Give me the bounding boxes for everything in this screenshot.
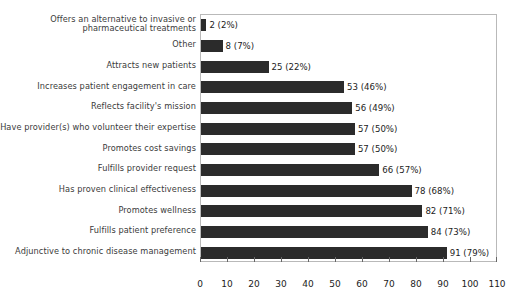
category-label: Adjunctive to chronic disease management [0, 247, 196, 257]
bar [201, 81, 344, 93]
x-tick-label: 80 [410, 279, 421, 289]
bar-value-label: 84 (73%) [431, 226, 470, 238]
bar [201, 226, 428, 238]
x-tick-label: 0 [197, 279, 203, 289]
bar [201, 247, 447, 259]
category-label: Promotes wellness [0, 206, 196, 216]
plot-area: 2 (2%)8 (7%)25 (22%)53 (46%)56 (49%)57 (… [200, 14, 497, 262]
bar [201, 123, 355, 135]
x-tick-label: 60 [356, 279, 367, 289]
category-label: Attracts new patients [0, 61, 196, 71]
bar-value-label: 91 (79%) [450, 247, 489, 259]
x-tick-label: 70 [383, 279, 394, 289]
bar-value-label: 57 (50%) [358, 143, 397, 155]
category-label: Promotes cost savings [0, 144, 196, 154]
x-tick-label: 110 [488, 279, 505, 289]
x-tick-label: 10 [221, 279, 232, 289]
category-label: Increases patient engagement in care [0, 82, 196, 92]
category-label: Fulfills provider request [0, 164, 196, 174]
bar [201, 61, 269, 73]
bar-value-label: 78 (68%) [415, 185, 454, 197]
x-tick-label: 40 [302, 279, 313, 289]
bar [201, 185, 412, 197]
bar-value-label: 57 (50%) [358, 123, 397, 135]
x-tick-label: 30 [275, 279, 286, 289]
category-label: Offers an alternative to invasive or pha… [0, 15, 196, 34]
category-label: Has proven clinical effectiveness [0, 185, 196, 195]
bar-value-label: 53 (46%) [347, 81, 386, 93]
category-axis-labels: Offers an alternative to invasive or pha… [0, 14, 196, 262]
bars-container: 2 (2%)8 (7%)25 (22%)53 (46%)56 (49%)57 (… [201, 15, 496, 261]
category-label: Other [0, 40, 196, 50]
category-label: Reflects facility's mission [0, 102, 196, 112]
bar-value-label: 25 (22%) [272, 61, 311, 73]
bar [201, 102, 352, 114]
bar [201, 19, 206, 31]
horizontal-bar-chart: Offers an alternative to invasive or pha… [0, 0, 511, 290]
x-tick-label: 100 [461, 279, 478, 289]
bar-value-label: 8 (7%) [226, 40, 255, 52]
bar [201, 205, 422, 217]
bar-value-label: 66 (57%) [382, 164, 421, 176]
bar [201, 40, 223, 52]
x-tick-label: 20 [248, 279, 259, 289]
category-label: Have provider(s) who volunteer their exp… [0, 123, 196, 133]
bar-value-label: 2 (2%) [209, 19, 238, 31]
category-label: Fulfills patient preference [0, 226, 196, 236]
bar-value-label: 56 (49%) [355, 102, 394, 114]
bar-value-label: 82 (71%) [425, 205, 464, 217]
x-tick-label: 90 [437, 279, 448, 289]
x-tick-label: 50 [329, 279, 340, 289]
bar [201, 143, 355, 155]
bar [201, 164, 379, 176]
